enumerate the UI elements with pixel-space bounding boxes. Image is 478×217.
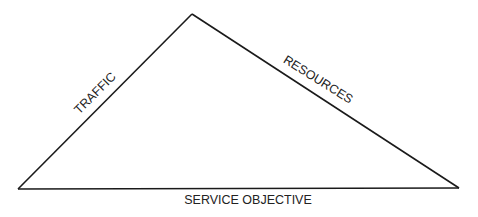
traffic-edge	[18, 14, 192, 189]
resources-edge	[192, 14, 459, 188]
triangle-diagram: TRAFFIC RESOURCES SERVICE OBJECTIVE	[0, 0, 478, 217]
traffic-label: TRAFFIC	[72, 70, 119, 117]
service-objective-edge	[18, 188, 459, 189]
service-objective-label: SERVICE OBJECTIVE	[184, 193, 312, 207]
